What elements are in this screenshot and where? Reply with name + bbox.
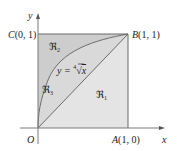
origin-label: O — [27, 134, 34, 145]
curve-equation: y = 4√x — [56, 64, 87, 76]
point-b-label: B(1, 1) — [132, 29, 160, 41]
x-axis-arrow-icon — [159, 126, 165, 130]
point-a-label: A(1, 0) — [111, 134, 140, 146]
point-c-label: C(0, 1) — [8, 29, 36, 41]
region-diagram: y x C(0, 1) B(1, 1) A(1, 0) O y = 4√x ℜ2… — [0, 0, 177, 151]
y-axis-label: y — [27, 10, 33, 21]
y-axis-arrow-icon — [36, 13, 40, 19]
x-axis-label: x — [161, 134, 167, 145]
